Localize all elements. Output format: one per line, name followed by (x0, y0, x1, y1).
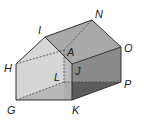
prism-diagram: I H G K N O P A L J (0, 0, 145, 122)
label-L: L (54, 71, 60, 83)
label-J: J (74, 65, 81, 77)
label-N: N (95, 8, 103, 20)
label-H: H (4, 62, 12, 74)
label-O: O (124, 42, 133, 54)
label-K: K (72, 104, 80, 116)
label-P: P (124, 78, 132, 90)
label-I: I (38, 24, 41, 36)
label-G: G (7, 104, 16, 116)
label-A: A (66, 46, 74, 58)
